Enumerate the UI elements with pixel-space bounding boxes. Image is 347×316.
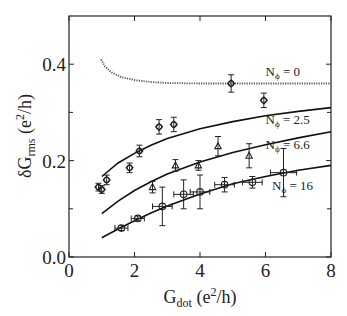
y-tick-label: 0.0 xyxy=(42,247,66,268)
chart: 024680.00.20.4 Nϕ = 0Nϕ = 2.5Nϕ = 6.6Nϕ … xyxy=(0,0,347,316)
x-tick-label: 8 xyxy=(326,260,336,281)
x-tick-label: 6 xyxy=(261,260,271,281)
data-point xyxy=(260,93,267,107)
data-point xyxy=(215,177,235,191)
y-tick-label: 0.2 xyxy=(42,151,66,172)
curve-label: Nϕ = 6.6 xyxy=(266,137,311,154)
data-point xyxy=(190,175,210,209)
y-tick-label: 0.4 xyxy=(42,54,66,75)
data-point xyxy=(126,163,133,173)
x-tick-label: 2 xyxy=(130,260,140,281)
curve-label: Nϕ = 2.5 xyxy=(266,112,310,129)
model-curve xyxy=(102,165,331,237)
y-axis-title: δGrms (e2/h) xyxy=(13,94,38,178)
data-points xyxy=(95,75,297,232)
data-point xyxy=(215,137,221,156)
curve-label: Nϕ = 16 xyxy=(272,178,313,195)
data-point xyxy=(170,117,177,131)
data-point xyxy=(156,120,163,134)
data-point xyxy=(103,175,110,185)
data-point xyxy=(98,186,105,194)
plot-area: 024680.00.20.4 Nϕ = 0Nϕ = 2.5Nϕ = 6.6Nϕ … xyxy=(0,0,347,316)
x-axis-title: Gdot (e2/h) xyxy=(164,285,237,310)
data-point xyxy=(136,145,143,157)
data-point xyxy=(228,75,235,92)
curve-label: Nϕ = 0 xyxy=(266,64,300,81)
x-tick-label: 4 xyxy=(195,260,205,281)
data-point xyxy=(149,181,155,193)
